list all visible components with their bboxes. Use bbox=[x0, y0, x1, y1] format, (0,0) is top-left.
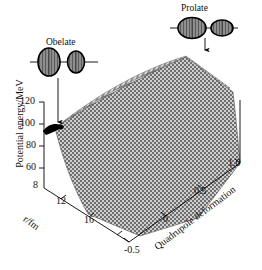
obelate-nucleus-icon bbox=[30, 48, 98, 76]
prolate-label: Prolate bbox=[181, 4, 208, 14]
obelate-label: Obelate bbox=[46, 38, 76, 48]
vertical-tick-60: 60 bbox=[26, 162, 36, 172]
r-tick-16: 16 bbox=[84, 215, 94, 225]
plot-canvas bbox=[0, 0, 262, 270]
prolate-annotation-group bbox=[170, 18, 238, 51]
vertical-tick-80: 80 bbox=[26, 140, 36, 150]
vertical-tick-100: 100 bbox=[20, 118, 35, 128]
vertical-tick-120: 120 bbox=[20, 96, 35, 106]
potential-energy-surface-figure: Obelate Prolate Potential energy/MeV 120… bbox=[0, 0, 262, 270]
r-tick-8: 8 bbox=[33, 180, 38, 190]
q-tick-neg05: -0.5 bbox=[124, 245, 140, 255]
r-tick-12: 12 bbox=[56, 196, 66, 206]
q-tick-10: 1.0 bbox=[228, 158, 241, 168]
q-tick-05: 0.5 bbox=[194, 186, 207, 196]
q-tick-0: 0 bbox=[163, 214, 168, 224]
prolate-nucleus-icon bbox=[170, 18, 238, 39]
vertical-axis-ticks bbox=[39, 102, 44, 168]
